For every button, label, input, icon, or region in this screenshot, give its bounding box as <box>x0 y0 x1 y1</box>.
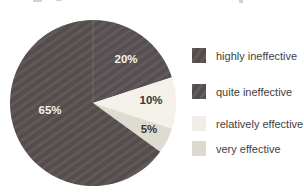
legend-item-highly-ineffective: highly ineffective <box>192 48 297 63</box>
legend-swatch-highly-ineffective <box>192 48 206 63</box>
legend-label-quite-ineffective: quite ineffective <box>216 86 292 98</box>
legend-swatch-relatively-effective <box>192 116 206 131</box>
legend-label-relatively-effective: relatively effective <box>216 118 303 130</box>
legend-label-very-effective: very effective <box>216 143 281 155</box>
legend-label-highly-ineffective: highly ineffective <box>216 50 297 62</box>
legend: highly ineffective quite ineffective rel… <box>0 0 304 193</box>
legend-item-relatively-effective: relatively effective <box>192 116 303 131</box>
chart-canvas: 20% 10% 5% 65% highly ineffective quite … <box>0 0 304 193</box>
legend-item-quite-ineffective: quite ineffective <box>192 84 292 99</box>
legend-swatch-quite-ineffective <box>192 84 206 99</box>
legend-item-very-effective: very effective <box>192 141 281 156</box>
legend-swatch-very-effective <box>192 141 206 156</box>
